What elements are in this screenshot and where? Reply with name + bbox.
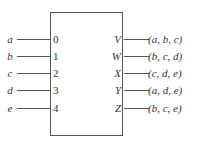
output-value: (c, d, e) — [148, 66, 182, 80]
output-wire — [124, 73, 149, 74]
output-port: V — [109, 32, 121, 46]
output-wire — [124, 108, 149, 109]
output-row: W (b, c, d) — [0, 49, 199, 63]
output-wire — [124, 90, 149, 91]
output-row: V (a, b, c) — [0, 32, 199, 46]
output-row: Z (b, c, e) — [0, 101, 199, 115]
output-value: (b, c, e) — [148, 101, 182, 115]
output-value: (b, c, d) — [148, 49, 182, 63]
output-port: Y — [109, 83, 121, 97]
output-row: X (c, d, e) — [0, 66, 199, 80]
output-wire — [124, 39, 149, 40]
output-port: Z — [109, 101, 121, 115]
output-port: X — [109, 66, 121, 80]
output-value: (a, d, e) — [148, 83, 182, 97]
output-row: Y (a, d, e) — [0, 83, 199, 97]
output-wire — [124, 56, 149, 57]
output-port: W — [109, 49, 121, 63]
output-value: (a, b, c) — [148, 32, 182, 46]
